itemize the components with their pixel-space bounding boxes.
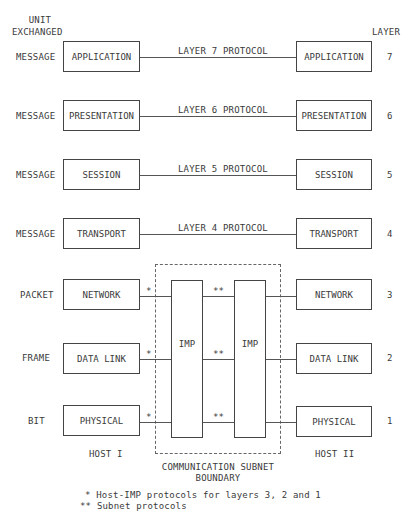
layer-number: 2 [387, 353, 393, 363]
subnet-marker: ** [213, 286, 224, 296]
box-label: TRANSPORT [310, 229, 359, 239]
footnote-text: Host-IMP protocols for layers 3, 2 and 1 [96, 490, 321, 500]
imp-box-2: IMP [234, 280, 266, 438]
host-2-label: HOST II [315, 449, 354, 459]
host1-data-link-box: DATA LINK [63, 343, 140, 374]
box-label: SESSION [83, 170, 121, 180]
unit-label: MESSAGE [16, 170, 55, 180]
footnote-2: ** Subnet protocols [80, 501, 187, 511]
footnote-text: Subnet protocols [97, 501, 187, 511]
imp-host-line [266, 422, 296, 423]
imp-box-1: IMP [171, 280, 203, 438]
layer-number: 7 [387, 52, 393, 62]
host2-presentation-box: PRESENTATION [296, 100, 372, 131]
imp-label: IMP [242, 339, 258, 349]
box-label: DATA LINK [77, 354, 126, 364]
host-imp-line [140, 359, 171, 360]
footnote-1: * Host-IMP protocols for layers 3, 2 and… [85, 490, 321, 500]
protocol-label: LAYER 6 PROTOCOL [178, 105, 268, 115]
box-label: PHYSICAL [80, 416, 123, 426]
imp-host-line [266, 296, 296, 297]
layer-column-label: LAYER [372, 27, 400, 37]
layer-number: 1 [387, 416, 393, 426]
box-label: SESSION [315, 170, 353, 180]
host2-data-link-box: DATA LINK [296, 343, 372, 374]
host2-network-box: NETWORK [296, 279, 372, 310]
host1-presentation-box: PRESENTATION [63, 100, 140, 131]
protocol-line [140, 57, 296, 58]
host-imp-marker: * [146, 286, 152, 296]
unit-exchanged-label-line1: UNIT [18, 15, 62, 25]
host-imp-marker: * [146, 349, 152, 359]
protocol-line [140, 175, 296, 176]
protocol-label: LAYER 4 PROTOCOL [178, 223, 268, 233]
unit-exchanged-label-line2: EXCHANGED [12, 27, 63, 37]
protocol-line [140, 116, 296, 117]
protocol-label: LAYER 7 PROTOCOL [178, 46, 268, 56]
unit-label: MESSAGE [16, 52, 55, 62]
host2-application-box: APPLICATION [296, 41, 372, 72]
host-imp-line [140, 422, 171, 423]
unit-label: FRAME [22, 353, 50, 363]
box-label: DATA LINK [310, 354, 359, 364]
host-imp-marker: * [146, 412, 152, 422]
subnet-line [203, 296, 234, 297]
box-label: NETWORK [83, 290, 121, 300]
box-label: PHYSICAL [312, 417, 355, 427]
box-label: APPLICATION [304, 52, 364, 62]
box-label: PRESENTATION [69, 111, 134, 121]
unit-label: MESSAGE [16, 229, 55, 239]
unit-label: MESSAGE [16, 111, 55, 121]
layer-number: 5 [387, 170, 393, 180]
imp-label: IMP [179, 339, 195, 349]
host1-transport-box: TRANSPORT [63, 218, 140, 249]
layer-number: 3 [387, 290, 393, 300]
footnote-mark: * [85, 490, 91, 500]
footnote-mark: ** [80, 501, 91, 511]
box-label: PRESENTATION [301, 111, 366, 121]
box-label: APPLICATION [72, 52, 132, 62]
host2-physical-box: PHYSICAL [296, 406, 372, 437]
host2-session-box: SESSION [296, 159, 372, 190]
protocol-label: LAYER 5 PROTOCOL [178, 164, 268, 174]
subnet-boundary-caption-line2: BOUNDARY [150, 473, 286, 483]
subnet-marker: ** [213, 349, 224, 359]
imp-host-line [266, 359, 296, 360]
layer-number: 4 [387, 229, 393, 239]
host1-physical-box: PHYSICAL [63, 405, 140, 436]
unit-label: BIT [28, 416, 45, 426]
subnet-line [203, 359, 234, 360]
subnet-line [203, 422, 234, 423]
host1-session-box: SESSION [63, 159, 140, 190]
host1-application-box: APPLICATION [63, 41, 140, 72]
box-label: NETWORK [315, 290, 353, 300]
box-label: TRANSPORT [77, 229, 126, 239]
host1-network-box: NETWORK [63, 279, 140, 310]
host-imp-line [140, 296, 171, 297]
subnet-boundary-caption-line1: COMMUNICATION SUBNET [150, 462, 286, 472]
host2-transport-box: TRANSPORT [296, 218, 372, 249]
unit-label: PACKET [20, 290, 54, 300]
subnet-marker: ** [213, 412, 224, 422]
host-1-label: HOST I [89, 449, 123, 459]
protocol-line [140, 234, 296, 235]
layer-number: 6 [387, 111, 393, 121]
